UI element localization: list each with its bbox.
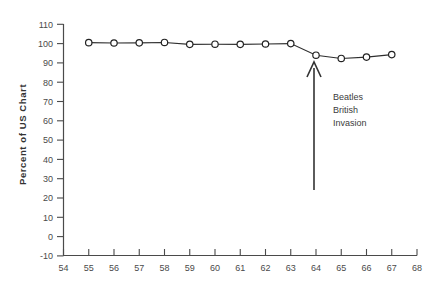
x-tick-label: 64 xyxy=(311,263,321,273)
data-point-marker xyxy=(389,51,395,57)
y-tick-label: 70 xyxy=(43,97,53,107)
data-point-marker xyxy=(363,54,369,60)
x-tick-label: 59 xyxy=(185,263,195,273)
x-tick-label: 56 xyxy=(109,263,119,273)
chart-container: Percent of US Chart 110 100 90 80 70 60 … xyxy=(0,0,432,287)
x-tick-label: 67 xyxy=(387,263,397,273)
y-tick-label: 0 xyxy=(48,232,53,242)
y-tick-label: 40 xyxy=(43,155,53,165)
x-tick-label: 63 xyxy=(286,263,296,273)
x-tick-label: 55 xyxy=(84,263,94,273)
x-tick-label: 54 xyxy=(58,263,68,273)
annotation-text-line-2: British xyxy=(333,105,358,115)
y-tick-label: 110 xyxy=(39,20,53,30)
data-point-marker xyxy=(136,40,142,46)
annotation-text-line-1: Beatles xyxy=(333,92,364,102)
annotation-text-line-3: Invasion xyxy=(333,118,367,128)
data-point-marker xyxy=(111,40,117,46)
annotation-beatles-british-invasion: Beatles British Invasion xyxy=(307,62,367,190)
y-tick-label: 90 xyxy=(43,58,53,68)
x-tick-label: 62 xyxy=(260,263,270,273)
line-chart: Percent of US Chart 110 100 90 80 70 60 … xyxy=(0,0,432,287)
data-point-marker xyxy=(212,41,218,47)
y-axis-title-text: Percent of US Chart xyxy=(17,84,28,185)
x-axis-ticks: 54 55 56 57 58 59 60 61 62 63 64 65 xyxy=(58,249,422,273)
y-tick-label: 60 xyxy=(43,116,53,126)
y-axis-ticks: 110 100 90 80 70 60 50 40 30 20 10 0 xyxy=(38,20,64,262)
x-tick-label: 60 xyxy=(210,263,220,273)
y-tick-label: 100 xyxy=(38,39,53,49)
x-tick-label: 68 xyxy=(412,263,422,273)
y-axis-title: Percent of US Chart xyxy=(17,84,28,185)
data-point-marker xyxy=(338,55,344,61)
y-tick-label: 20 xyxy=(43,193,53,203)
x-tick-label: 58 xyxy=(159,263,169,273)
data-point-marker xyxy=(313,52,319,58)
x-tick-label: 57 xyxy=(134,263,144,273)
y-tick-label: 10 xyxy=(43,213,53,223)
y-tick-label: 80 xyxy=(43,78,53,88)
data-point-marker xyxy=(187,41,193,47)
x-tick-label: 66 xyxy=(361,263,371,273)
y-tick-label: -10 xyxy=(40,251,53,261)
x-tick-label: 61 xyxy=(235,263,245,273)
data-point-marker xyxy=(262,41,268,47)
data-series xyxy=(86,39,395,61)
y-tick-label: 50 xyxy=(43,135,53,145)
data-point-marker xyxy=(288,40,294,46)
data-point-marker xyxy=(86,39,92,45)
data-point-marker xyxy=(161,39,167,45)
y-tick-label: 30 xyxy=(43,174,53,184)
data-point-marker xyxy=(237,41,243,47)
x-tick-label: 65 xyxy=(336,263,346,273)
